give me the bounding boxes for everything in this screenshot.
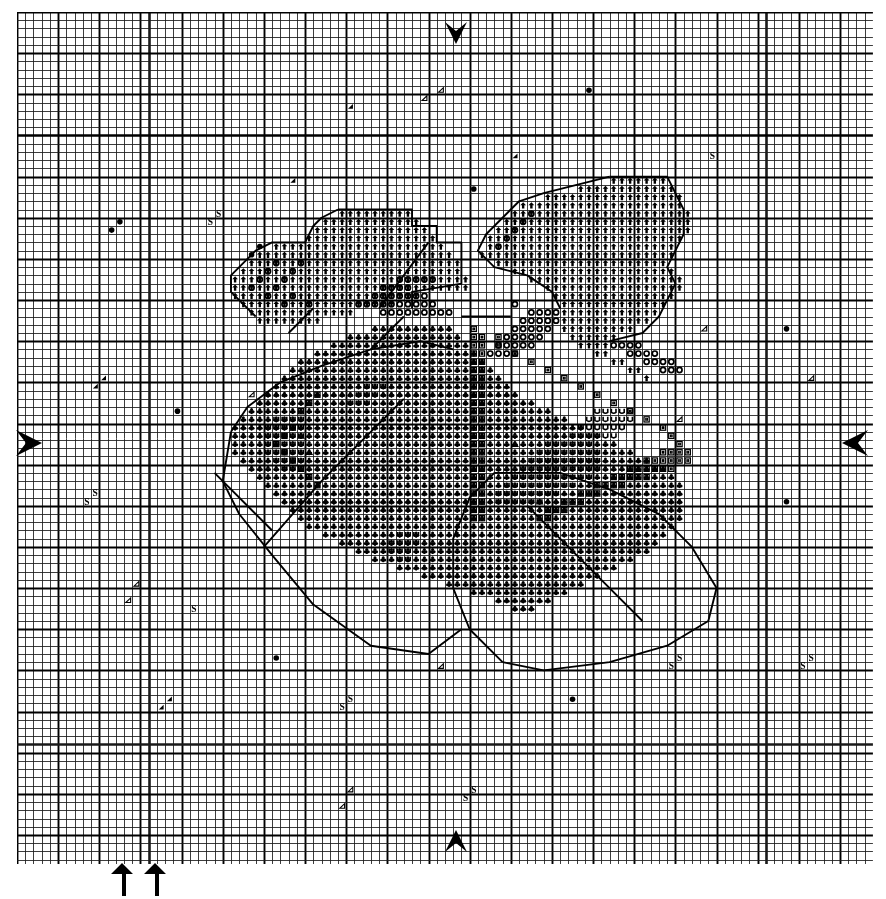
left-centre-marker: [12, 428, 46, 458]
bottom-outer-arrows: [105, 862, 175, 898]
right-centre-marker: [838, 428, 872, 458]
cross-stitch-chart-page: [0, 0, 886, 899]
top-centre-marker: [441, 14, 471, 48]
backstitch-outline-layer: [17, 12, 873, 864]
bottom-centre-marker: [441, 828, 471, 862]
pattern-grid[interactable]: [17, 12, 873, 864]
